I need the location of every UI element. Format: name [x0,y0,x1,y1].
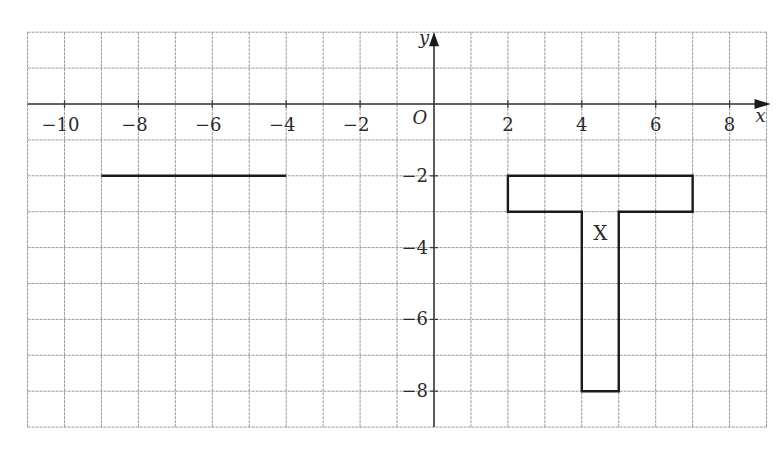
x-tick-label: 4 [576,114,587,135]
tick-labels: xyO−10−8−6−4−22468−2−4−6−8 [42,27,766,401]
x-axis-label: x [755,105,765,126]
y-tick-label: −8 [401,380,428,401]
y-tick-label: −6 [401,308,428,329]
x-tick-label: −4 [269,114,296,135]
x-tick-label: −6 [195,114,222,135]
origin-label: O [413,107,428,128]
coordinate-grid-figure: xyO−10−8−6−4−22468−2−4−6−8 X O x y [0,0,783,454]
x-tick-label: 6 [650,114,661,135]
x-tick-label: −10 [42,114,80,135]
y-tick-label: −2 [401,165,428,186]
y-axis-label: y [418,27,430,48]
x-tick-label: −8 [121,114,148,135]
axes [28,32,771,427]
y-axis-arrow-icon [429,32,439,46]
x-tick-label: 8 [724,114,735,135]
grid-lines [28,32,767,427]
shape-label: X [593,221,608,245]
y-tick-label: −4 [401,237,428,258]
x-tick-label: −2 [343,114,370,135]
x-tick-label: 2 [502,114,513,135]
grid-svg: xyO−10−8−6−4−22468−2−4−6−8 X [0,0,783,454]
